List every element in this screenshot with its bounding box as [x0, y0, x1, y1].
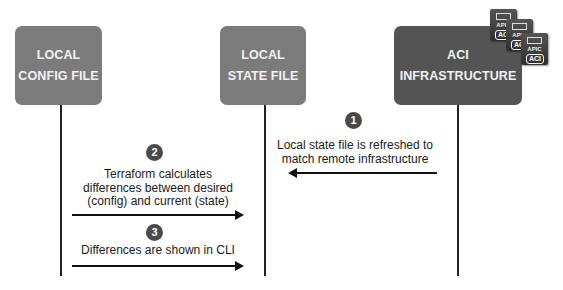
- step-3-badge: 3: [146, 224, 163, 241]
- local-state-file-box: LOCAL STATE FILE: [220, 26, 306, 105]
- box-label-line1: ACI: [447, 45, 469, 66]
- step-1-label: Local state file is refreshed to match r…: [275, 139, 435, 166]
- step-1-badge: 1: [345, 112, 362, 129]
- state-lifeline: [264, 105, 266, 276]
- step-2-badge: 2: [146, 144, 163, 161]
- step-2-arrow: [72, 214, 242, 216]
- box-label-line1: LOCAL: [37, 45, 81, 66]
- step-3-label: Differences are shown in CLI: [72, 244, 244, 258]
- box-label-line2: INFRASTRUCTURE: [400, 66, 517, 87]
- step-2-label: Terraform calculates differences between…: [72, 168, 244, 209]
- step-1-arrow: [290, 172, 437, 174]
- apic-server-icon: APICACI: [521, 33, 548, 65]
- box-label-line2: STATE FILE: [228, 66, 299, 87]
- box-label-line2: CONFIG FILE: [18, 66, 98, 87]
- config-lifeline: [60, 105, 62, 276]
- local-config-file-box: LOCAL CONFIG FILE: [15, 26, 102, 105]
- aci-lifeline: [457, 105, 459, 276]
- box-label-line1: LOCAL: [241, 45, 285, 66]
- step-3-arrow: [72, 265, 242, 267]
